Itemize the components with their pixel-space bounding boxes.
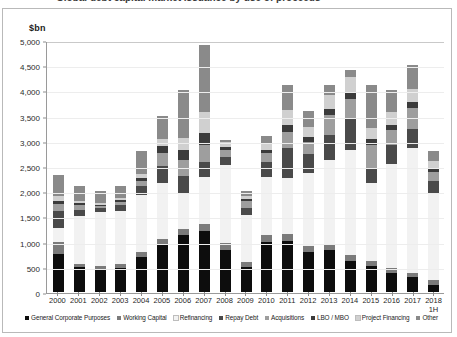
stacked-bar[interactable] <box>241 191 252 292</box>
bar-segment <box>428 172 439 181</box>
bar-segment <box>53 211 64 228</box>
legend-item[interactable]: Repay Debt <box>219 314 258 321</box>
bar-slot <box>173 42 194 292</box>
bar-segment <box>303 154 314 173</box>
stacked-bar[interactable] <box>428 151 439 292</box>
bar-segment <box>74 267 85 292</box>
y-axis-tick-label: 1,000 <box>20 239 40 248</box>
gridline <box>47 67 444 68</box>
bar-segment <box>386 90 397 111</box>
bar-segment <box>282 132 293 149</box>
y-axis-tick-label: 3,000 <box>20 138 40 147</box>
stacked-bar[interactable] <box>115 186 126 292</box>
legend-swatch-icon <box>219 316 223 320</box>
x-axis-tick-text-second-line: 1H <box>423 305 444 314</box>
stacked-bar[interactable] <box>136 151 147 292</box>
stacked-bar[interactable] <box>282 85 293 292</box>
x-axis-tick-text: 2007 <box>193 296 214 305</box>
x-axis-tick <box>433 292 434 296</box>
legend-item[interactable]: Working Capital <box>117 314 167 321</box>
x-axis-tick <box>413 292 414 296</box>
legend-swatch-icon <box>311 316 315 320</box>
legend-item[interactable]: Project Financing <box>356 314 410 321</box>
bar-segment <box>157 116 168 139</box>
stacked-bar[interactable] <box>386 90 397 292</box>
x-axis-tick-text: 2016 <box>381 296 402 305</box>
stacked-bar[interactable] <box>345 70 356 292</box>
legend-swatch-icon <box>356 316 360 320</box>
stacked-bar[interactable] <box>324 85 335 292</box>
y-axis-tick-label: 1,500 <box>20 214 40 223</box>
bar-segment <box>199 231 210 292</box>
x-axis-tick <box>57 292 58 296</box>
stacked-bar[interactable] <box>95 191 106 292</box>
bar-slot <box>402 42 423 292</box>
x-axis-tick <box>392 292 393 296</box>
bar-segment <box>53 228 64 242</box>
bar-slot <box>382 42 403 292</box>
legend-item[interactable]: General Corporate Purposes <box>25 314 110 321</box>
x-axis-tick <box>287 292 288 296</box>
stacked-bar[interactable] <box>178 90 189 292</box>
bar-segment <box>74 216 85 264</box>
bar-segment <box>53 254 64 292</box>
bar-segment <box>366 169 377 184</box>
bar-slot <box>111 42 132 292</box>
x-axis-tick <box>225 292 226 296</box>
gridline <box>47 143 444 144</box>
bar-segment <box>220 165 231 244</box>
x-axis-tick <box>329 292 330 296</box>
x-axis-tick-text: 2014 <box>339 296 360 305</box>
bar-series-container <box>48 42 444 292</box>
bar-segment <box>136 257 147 292</box>
stacked-bar[interactable] <box>74 186 85 292</box>
bar-segment <box>428 151 439 161</box>
gridline <box>47 269 444 270</box>
bar-segment <box>178 150 189 160</box>
bar-segment <box>345 119 356 150</box>
x-axis-tick-text: 2000 <box>47 296 68 305</box>
stacked-bar[interactable] <box>303 111 314 292</box>
y-axis-unit-label: $bn <box>29 23 46 33</box>
stacked-bar[interactable] <box>366 85 377 292</box>
legend-swatch-icon <box>265 316 269 320</box>
bar-slot <box>361 42 382 292</box>
bar-segment <box>261 242 272 292</box>
bar-segment <box>199 112 210 133</box>
bar-segment <box>366 266 377 292</box>
bar-segment <box>345 99 356 119</box>
bar-segment <box>241 208 252 216</box>
gridline <box>47 218 444 219</box>
bar-segment <box>53 204 64 211</box>
x-axis-tick-text: 2018 <box>423 296 444 305</box>
plot-canvas <box>46 42 444 294</box>
bar-slot <box>256 42 277 292</box>
bar-segment <box>220 150 231 157</box>
legend-swatch-icon <box>416 316 420 320</box>
x-axis-tick-text: 2017 <box>402 296 423 305</box>
bar-segment <box>199 224 210 231</box>
chart-legend: General Corporate PurposesWorking Capita… <box>3 314 457 321</box>
chart-screenshot: Global debt capital market issuance by u… <box>0 0 457 337</box>
bar-segment <box>407 108 418 129</box>
bar-segment <box>220 250 231 292</box>
x-axis-tick <box>266 292 267 296</box>
x-axis-tick <box>308 292 309 296</box>
legend-label: Working Capital <box>123 314 167 321</box>
bar-segment <box>199 45 210 112</box>
legend-label: Refinancing <box>180 314 213 321</box>
stacked-bar[interactable] <box>407 65 418 292</box>
legend-item[interactable]: Refinancing <box>174 314 213 321</box>
bar-slot <box>298 42 319 292</box>
legend-item[interactable]: LBO / MBO <box>311 314 349 321</box>
gridline <box>47 244 444 245</box>
legend-label: General Corporate Purposes <box>31 314 110 321</box>
x-axis-tick-text: 2001 <box>68 296 89 305</box>
bar-slot <box>90 42 111 292</box>
bar-segment <box>199 145 210 162</box>
bar-slot <box>48 42 69 292</box>
bar-segment <box>407 89 418 102</box>
legend-item[interactable]: Acquisitions <box>265 314 304 321</box>
legend-item[interactable]: Other <box>416 314 437 321</box>
x-axis-tick-text: 2013 <box>319 296 340 305</box>
